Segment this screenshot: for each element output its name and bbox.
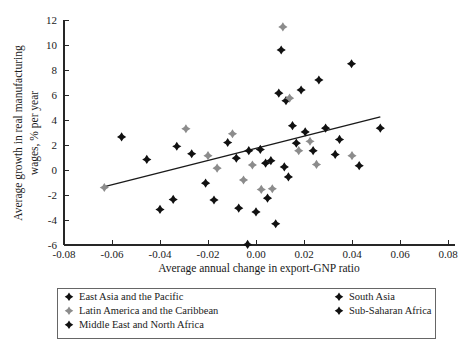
- scatter-plot-figure: -6-4-2024681012 -0.08-0.06-0.04-0.020.00…: [0, 0, 469, 348]
- data-point: [376, 124, 385, 133]
- y-tick-label: 0: [52, 164, 58, 176]
- data-point: [234, 204, 243, 213]
- x-tick-label: 0.08: [438, 248, 458, 260]
- data-point: [284, 172, 293, 181]
- data-point: [347, 151, 356, 160]
- x-tick-label: -0.08: [53, 248, 76, 260]
- legend-marker-icon: [335, 307, 344, 316]
- y-tick-label: 8: [52, 64, 58, 76]
- data-point: [172, 142, 181, 151]
- regression-line: [104, 117, 381, 187]
- y-tick-label: 4: [52, 114, 58, 126]
- data-point: [201, 179, 210, 188]
- data-point: [280, 162, 289, 171]
- axis-lines: [64, 20, 455, 245]
- data-point: [305, 137, 314, 146]
- y-tick-label: 12: [46, 14, 57, 26]
- legend-item-right-1[interactable]: Sub-Saharan Africa: [335, 305, 432, 316]
- legend-marker-icon: [65, 307, 74, 316]
- y-axis-title-line1: Average growth in real manufacturing: [12, 45, 25, 221]
- legend-label: Latin America and the Caribbean: [79, 305, 219, 316]
- y-tick-label: 10: [46, 39, 58, 51]
- x-axis-ticks: [64, 240, 448, 245]
- x-axis-title: Average annual change in export-GNP rati…: [158, 262, 360, 275]
- data-point: [297, 85, 306, 94]
- x-tick-label: 0.06: [390, 248, 410, 260]
- trend-line: [104, 117, 381, 187]
- data-point: [169, 195, 178, 204]
- data-point: [292, 139, 301, 148]
- chart-canvas: -6-4-2024681012 -0.08-0.06-0.04-0.020.00…: [0, 0, 469, 348]
- data-point: [294, 146, 303, 155]
- x-axis-tick-labels: -0.08-0.06-0.04-0.020.000.020.040.060.08: [53, 248, 459, 260]
- y-axis-ticks: [64, 20, 69, 245]
- data-point: [209, 195, 218, 204]
- legend-marker-icon: [65, 293, 74, 302]
- data-point: [278, 22, 287, 31]
- data-point: [181, 124, 190, 133]
- data-point: [312, 160, 321, 169]
- data-point: [187, 149, 196, 158]
- legend-item-left-1[interactable]: Latin America and the Caribbean: [65, 305, 219, 316]
- x-tick-label: 0.00: [246, 248, 266, 260]
- y-axis-tick-labels: -6-4-2024681012: [46, 14, 58, 251]
- x-tick-label: 0.02: [294, 248, 313, 260]
- legend-label: Sub-Saharan Africa: [349, 305, 432, 316]
- y-tick-label: -2: [48, 189, 57, 201]
- x-tick-label: -0.02: [197, 248, 220, 260]
- data-point: [309, 146, 318, 155]
- data-point: [239, 175, 248, 184]
- y-tick-label: 6: [52, 89, 58, 101]
- series-1: [100, 22, 357, 194]
- series-3: [244, 85, 318, 155]
- series-2: [155, 138, 280, 249]
- data-point: [228, 129, 237, 138]
- y-tick-label: -4: [48, 214, 58, 226]
- legend-marker-icon: [65, 321, 74, 330]
- y-tick-label: 2: [52, 139, 58, 151]
- data-points-layer: [100, 22, 385, 249]
- data-point: [331, 150, 340, 159]
- data-point: [274, 89, 283, 98]
- data-point: [155, 205, 164, 214]
- data-point: [232, 154, 241, 163]
- legend-label: Middle East and North Africa: [79, 319, 204, 330]
- data-point: [100, 183, 109, 192]
- data-point: [277, 45, 286, 54]
- data-point: [288, 121, 297, 130]
- data-point: [335, 135, 344, 144]
- y-axis-title-line2: wages, % per year: [28, 91, 41, 175]
- legend: East Asia and the PacificLatin America a…: [65, 291, 432, 330]
- data-point: [203, 151, 212, 160]
- legend-item-left-2[interactable]: Middle East and North Africa: [65, 319, 204, 330]
- data-point: [142, 155, 151, 164]
- legend-label: East Asia and the Pacific: [79, 291, 184, 302]
- data-point: [244, 146, 253, 155]
- data-point: [355, 161, 364, 170]
- data-point: [268, 184, 277, 193]
- legend-label: South Asia: [349, 291, 395, 302]
- data-point: [263, 194, 272, 203]
- data-point: [314, 75, 323, 84]
- data-point: [251, 207, 260, 216]
- data-point: [248, 160, 257, 169]
- data-point: [213, 164, 222, 173]
- legend-item-left-0[interactable]: East Asia and the Pacific: [65, 291, 184, 302]
- x-tick-label: -0.04: [149, 248, 172, 260]
- data-point: [271, 219, 280, 228]
- series-0: [117, 45, 301, 204]
- x-tick-label: 0.04: [342, 248, 362, 260]
- legend-item-right-0[interactable]: South Asia: [335, 291, 395, 302]
- legend-marker-icon: [335, 293, 344, 302]
- data-point: [347, 59, 356, 68]
- data-point: [223, 138, 232, 147]
- x-tick-label: -0.06: [101, 248, 124, 260]
- data-point: [257, 185, 266, 194]
- data-point: [117, 132, 126, 141]
